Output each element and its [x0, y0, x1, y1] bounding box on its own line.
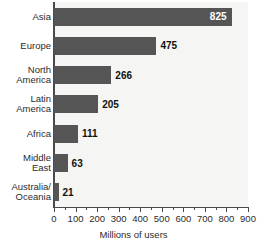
category-label-line: Asia: [33, 12, 51, 22]
bar-row: MiddleEast63: [0, 148, 267, 177]
category-label-line: Africa: [27, 129, 51, 139]
bar: [54, 183, 59, 201]
x-tick-major: [162, 207, 163, 212]
category-label: Europe: [0, 31, 51, 60]
category-label-line: East: [32, 163, 51, 173]
x-tick-major: [205, 207, 206, 212]
bar-row: Australia/Oceania21: [0, 178, 267, 207]
x-tick-label: 200: [89, 213, 105, 224]
x-tick-label: 300: [111, 213, 127, 224]
x-tick-label: 400: [132, 213, 148, 224]
category-label: LatinAmerica: [0, 90, 51, 119]
x-tick-minor: [65, 207, 66, 210]
bar-row: Africa111: [0, 119, 267, 148]
bar-row: NorthAmerica266: [0, 61, 267, 90]
x-tick-major: [226, 207, 227, 212]
x-tick-major: [97, 207, 98, 212]
bar-value-label: 205: [102, 90, 119, 119]
bar-value-label: 825: [210, 2, 227, 31]
x-tick-major: [140, 207, 141, 212]
bar: [54, 66, 111, 84]
x-axis-title: Millions of users: [0, 229, 267, 240]
bar-row: Asia825: [0, 2, 267, 31]
x-tick-major: [76, 207, 77, 212]
bar-value-label: 21: [63, 178, 74, 207]
category-label-line: Europe: [20, 41, 51, 51]
x-tick-minor: [108, 207, 109, 210]
bar-value-label: 266: [115, 61, 132, 90]
x-tick-minor: [129, 207, 130, 210]
category-label: Asia: [0, 2, 51, 31]
x-tick-minor: [86, 207, 87, 210]
x-tick-minor: [194, 207, 195, 210]
bar: [54, 154, 68, 172]
x-tick-major: [183, 207, 184, 212]
x-tick-minor: [216, 207, 217, 210]
x-tick-label: 800: [219, 213, 235, 224]
x-tick-major: [54, 207, 55, 212]
bar-value-label: 111: [82, 119, 98, 148]
x-tick-label: 900: [240, 213, 256, 224]
bar: [54, 37, 156, 55]
bar-row: Europe475: [0, 31, 267, 60]
x-tick-minor: [151, 207, 152, 210]
category-label-line: America: [16, 104, 51, 114]
x-tick-label: 0: [51, 213, 56, 224]
bar: [54, 95, 98, 113]
bar-value-label: 63: [72, 148, 83, 177]
x-tick-minor: [237, 207, 238, 210]
x-tick-label: 100: [68, 213, 84, 224]
category-label: NorthAmerica: [0, 61, 51, 90]
category-label: MiddleEast: [0, 148, 51, 177]
bar-row: LatinAmerica205: [0, 90, 267, 119]
category-label-line: Oceania: [16, 192, 51, 202]
category-label-line: America: [16, 75, 51, 85]
bar: [54, 125, 78, 143]
category-label: Africa: [0, 119, 51, 148]
x-tick-minor: [173, 207, 174, 210]
x-tick-label: 700: [197, 213, 213, 224]
x-tick-major: [248, 207, 249, 212]
bar: [54, 8, 232, 26]
x-tick-major: [119, 207, 120, 212]
bar-chart: Asia825Europe475NorthAmerica266LatinAmer…: [0, 0, 267, 249]
x-tick-label: 500: [154, 213, 170, 224]
x-tick-label: 600: [175, 213, 191, 224]
category-label: Australia/Oceania: [0, 178, 51, 207]
bar-value-label: 475: [160, 31, 177, 60]
